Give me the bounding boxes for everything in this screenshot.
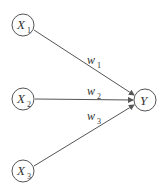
edge-x2-y — [35, 99, 133, 100]
node-label: X — [16, 17, 26, 32]
edge-x3-y — [34, 105, 134, 166]
weight-label-sub: 2 — [97, 92, 101, 101]
node-sub: 3 — [27, 172, 31, 181]
input-node-x1: X 1 — [12, 14, 34, 36]
weight-label-w2: w 2 — [87, 84, 101, 101]
weight-label-sub: 3 — [97, 117, 101, 126]
weight-label-w3: w 3 — [87, 109, 101, 126]
node-sub: 1 — [27, 26, 31, 35]
node-label: X — [16, 163, 26, 178]
weight-label-sub: 1 — [97, 61, 101, 70]
edge-x1-y — [34, 30, 134, 95]
input-node-x3: X 3 — [12, 160, 34, 182]
weight-label-w1: w 1 — [87, 53, 101, 70]
node-sub: 2 — [27, 100, 31, 109]
weight-label-text: w — [87, 84, 95, 98]
output-node-y: Y — [134, 89, 156, 111]
weight-label-text: w — [87, 53, 95, 67]
input-node-x2: X 2 — [12, 88, 34, 110]
node-label: X — [16, 91, 26, 106]
weight-label-text: w — [87, 109, 95, 123]
neural-network-diagram: w 1 w 2 w 3 X 1 X 2 X 3 Y — [0, 0, 168, 193]
